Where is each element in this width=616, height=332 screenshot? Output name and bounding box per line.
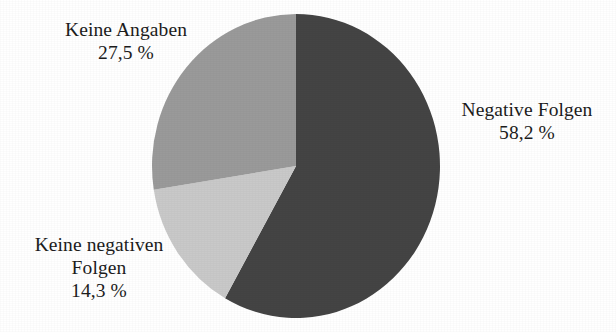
pie-chart-figure: Keine Angaben 27,5 % Negative Folgen 58,… [0,0,616,332]
pie-label-keine-angaben-value: 27,5 % [38,41,214,64]
pie-label-keine-negativen-folgen-name-line1: Keine negativen [14,233,184,256]
pie-label-keine-negativen-folgen-value: 14,3 % [14,279,184,302]
pie-label-negative-folgen-value: 58,2 % [444,121,610,144]
pie-label-keine-negativen-folgen: Keine negativen Folgen 14,3 % [14,233,184,302]
pie-label-keine-angaben: Keine Angaben 27,5 % [38,18,214,64]
pie-label-keine-negativen-folgen-name-line2: Folgen [14,256,184,279]
pie-label-negative-folgen: Negative Folgen 58,2 % [444,98,610,144]
pie-label-negative-folgen-name: Negative Folgen [444,98,610,121]
pie-label-keine-angaben-name: Keine Angaben [38,18,214,41]
